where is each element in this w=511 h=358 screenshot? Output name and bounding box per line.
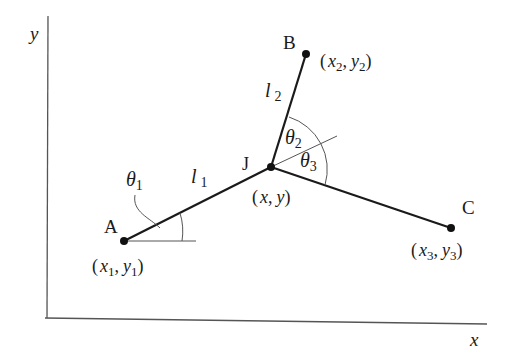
angle-arc-theta1 bbox=[180, 213, 183, 241]
label-l1: l1 bbox=[191, 165, 208, 190]
coord-j: (x,y) bbox=[252, 187, 291, 208]
label-l2: l2 bbox=[265, 79, 282, 104]
coord-a: (x1,y1) bbox=[92, 256, 144, 279]
point-j bbox=[267, 163, 275, 171]
link-l1 bbox=[124, 167, 271, 241]
label-theta2: θ2 bbox=[285, 126, 302, 151]
label-a: A bbox=[104, 216, 118, 237]
x-axis-label: x bbox=[469, 329, 479, 350]
y-axis-label: y bbox=[28, 23, 39, 44]
label-b: B bbox=[283, 32, 296, 53]
coord-b: (x2,y2) bbox=[320, 51, 372, 74]
y-axis bbox=[47, 16, 48, 318]
theta1-leader bbox=[135, 195, 160, 228]
point-b bbox=[302, 50, 310, 58]
link-jc bbox=[271, 167, 451, 228]
label-c: C bbox=[462, 197, 475, 218]
x-axis bbox=[45, 318, 487, 324]
label-theta1: θ1 bbox=[126, 168, 143, 193]
label-j: J bbox=[242, 154, 249, 174]
kinematic-diagram: y x A B C J (x1,y1) (x2,y2) (x3,y3) (x,y… bbox=[0, 0, 511, 358]
point-c bbox=[447, 224, 455, 232]
point-a bbox=[120, 237, 128, 245]
coord-c: (x3,y3) bbox=[411, 240, 463, 263]
label-theta3: θ3 bbox=[300, 149, 317, 174]
